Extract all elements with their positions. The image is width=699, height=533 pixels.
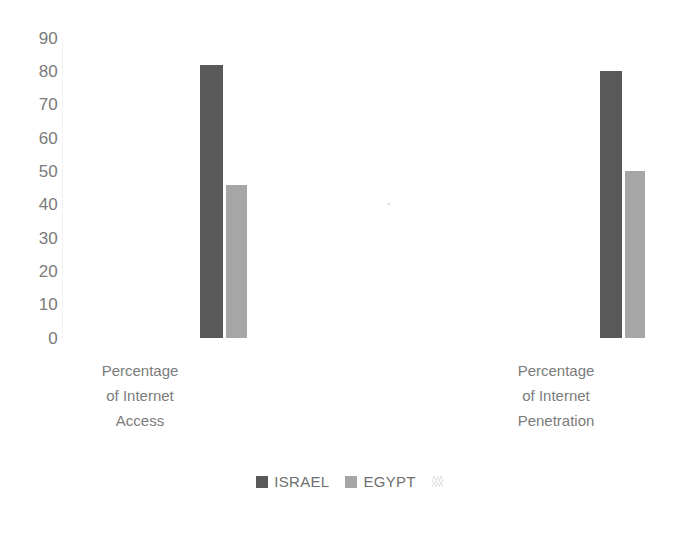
legend-entry-israel[interactable]: ISRAEL <box>256 474 329 489</box>
y-tick-30: 30 <box>18 230 58 247</box>
category-label-internet-access: Percentage of Internet Access <box>50 358 230 433</box>
legend-label-egypt: EGYPT <box>363 474 415 489</box>
legend-swatch-icon-israel <box>256 476 268 488</box>
plot-area <box>63 38 683 338</box>
y-tick-90: 90 <box>18 30 58 47</box>
category-label-line-1: Percentage <box>50 358 230 383</box>
bar-egypt-internet-penetration[interactable] <box>625 171 645 338</box>
bar-egypt-internet-access[interactable] <box>226 185 247 338</box>
y-tick-70: 70 <box>18 96 58 113</box>
y-tick-60: 60 <box>18 130 58 147</box>
category-label-internet-penetration: Percentage of Internet Penetration <box>466 358 646 433</box>
y-tick-80: 80 <box>18 63 58 80</box>
legend-smudge-artifact-icon <box>432 476 443 487</box>
y-axis-tick-labels: 90 80 70 60 50 40 30 20 10 0 <box>14 0 58 533</box>
bar-group-internet-access <box>200 38 282 338</box>
bar-israel-internet-access[interactable] <box>200 65 223 338</box>
y-tick-20: 20 <box>18 263 58 280</box>
category-label-line-1: Percentage <box>466 358 646 383</box>
category-label-line-3: Penetration <box>466 408 646 433</box>
bar-group-internet-penetration <box>600 38 682 338</box>
stray-speck-artifact <box>388 203 390 205</box>
bar-israel-internet-penetration[interactable] <box>600 71 622 338</box>
category-label-line-2: of Internet <box>466 383 646 408</box>
legend-label-israel: ISRAEL <box>274 474 329 489</box>
y-tick-10: 10 <box>18 296 58 313</box>
y-tick-0: 0 <box>18 330 58 347</box>
legend-entry-egypt[interactable]: EGYPT <box>345 474 415 489</box>
chart-legend: ISRAEL EGYPT <box>0 474 699 489</box>
category-label-line-2: of Internet <box>50 383 230 408</box>
y-tick-40: 40 <box>18 196 58 213</box>
category-label-line-3: Access <box>50 408 230 433</box>
legend-swatch-icon-egypt <box>345 476 357 488</box>
chart-page: 90 80 70 60 50 40 30 20 10 0 Percentage … <box>0 0 699 533</box>
y-tick-50: 50 <box>18 163 58 180</box>
